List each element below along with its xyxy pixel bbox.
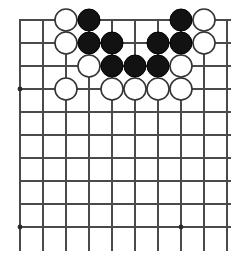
white-stone[interactable] <box>124 78 146 100</box>
white-stone[interactable] <box>193 9 215 31</box>
black-stone[interactable] <box>124 55 146 77</box>
go-board-canvas[interactable] <box>0 0 231 253</box>
white-stone[interactable] <box>55 9 77 31</box>
board-grid <box>20 20 231 250</box>
black-stone[interactable] <box>78 9 100 31</box>
black-stone[interactable] <box>101 32 123 54</box>
white-stone[interactable] <box>170 55 192 77</box>
star-point <box>18 87 23 92</box>
white-stone[interactable] <box>78 55 100 77</box>
white-stone[interactable] <box>55 78 77 100</box>
black-stone[interactable] <box>101 55 123 77</box>
white-stone[interactable] <box>193 32 215 54</box>
white-stone[interactable] <box>55 32 77 54</box>
go-board-diagram <box>0 0 231 253</box>
black-stone[interactable] <box>147 55 169 77</box>
white-stone[interactable] <box>147 78 169 100</box>
star-point <box>179 225 184 230</box>
black-stone[interactable] <box>170 32 192 54</box>
black-stone[interactable] <box>78 32 100 54</box>
white-stone[interactable] <box>101 78 123 100</box>
star-point <box>18 225 23 230</box>
black-stone[interactable] <box>170 9 192 31</box>
white-stone[interactable] <box>170 78 192 100</box>
black-stone[interactable] <box>147 32 169 54</box>
